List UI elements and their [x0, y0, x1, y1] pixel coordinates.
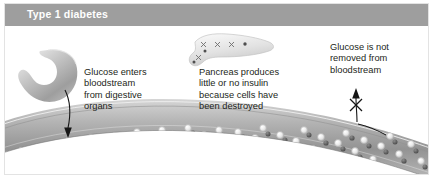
pancreas-body — [189, 34, 273, 66]
type-1-diabetes-figure: Type 1 diabetes — [0, 0, 433, 178]
figure-frame: Type 1 diabetes — [4, 3, 429, 175]
callout-glucose-enters: Glucose enters bloodstream from digestiv… — [84, 67, 147, 113]
callout-glucose-not-removed: Glucose is not removed from bloodstream — [330, 42, 389, 76]
pancreas-illustration — [189, 34, 273, 66]
callout-pancreas-insulin: Pancreas produces little or no insulin b… — [199, 67, 279, 113]
stomach-illustration — [18, 50, 77, 102]
stomach-body — [18, 50, 77, 102]
